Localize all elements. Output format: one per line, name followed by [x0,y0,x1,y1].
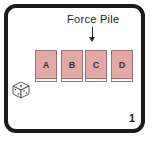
pile-label: D [119,60,126,70]
pile-label: B [69,60,76,70]
pile-label: C [93,60,100,70]
force-pile-label: Force Pile [67,13,120,25]
pile-label: A [43,60,50,70]
pile-d[interactable]: D [111,50,133,79]
dice-icon[interactable] [11,80,31,100]
pile-a[interactable]: A [35,50,57,79]
pile-c[interactable]: C [85,50,107,79]
pile-b[interactable]: B [61,50,83,79]
arrow-down-icon [92,27,93,41]
page-number: 1 [129,112,135,124]
